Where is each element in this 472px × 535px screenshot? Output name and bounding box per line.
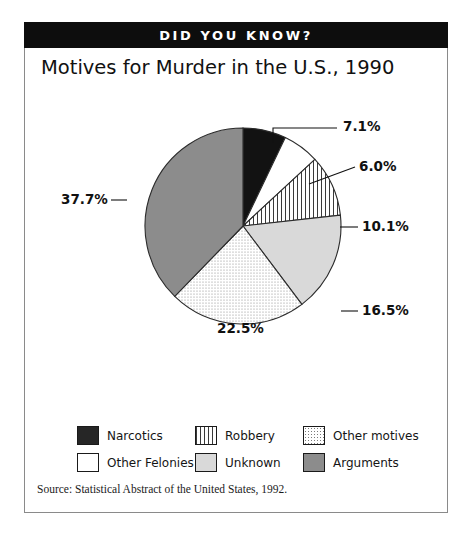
pct-label-robbery: 10.1%	[362, 218, 409, 234]
pie-slices	[145, 128, 341, 324]
legend-label: Arguments	[333, 456, 399, 470]
legend-label: Other motives	[333, 429, 419, 443]
legend-label: Other Felonies	[107, 456, 194, 470]
pct-label-other-felonies: 6.0%	[359, 158, 397, 174]
legend-label: Robbery	[225, 429, 275, 443]
pct-label-narcotics: 7.1%	[343, 118, 381, 134]
legend-label: Unknown	[225, 456, 281, 470]
pct-label-other-motives: 22.5%	[217, 320, 264, 336]
dotted-swatch	[303, 426, 325, 445]
legend-item-other-felonies[interactable]: Other Felonies	[77, 453, 195, 472]
source-note: Source: Statistical Abstract of the Unit…	[37, 483, 287, 495]
pie-chart: 7.1%6.0%10.1%16.5%22.5%37.7%	[25, 83, 447, 423]
legend-item-arguments[interactable]: Arguments	[303, 453, 421, 472]
solid-dark-swatch	[77, 426, 99, 445]
white-swatch	[77, 453, 99, 472]
did-you-know-card: DID YOU KNOW? Motives for Murder in the …	[24, 22, 448, 513]
chart-legend: NarcoticsRobberyOther motivesOther Felon…	[77, 422, 407, 476]
legend-item-unknown[interactable]: Unknown	[195, 453, 303, 472]
pie-chart-svg: 7.1%6.0%10.1%16.5%22.5%37.7%	[25, 83, 447, 423]
mid-gray-swatch	[303, 453, 325, 472]
page-title: Motives for Murder in the U.S., 1990	[41, 56, 394, 79]
legend-item-robbery[interactable]: Robbery	[195, 426, 303, 445]
vertical-stripes-swatch	[195, 426, 217, 445]
pct-label-arguments: 37.7%	[61, 191, 108, 207]
legend-item-narcotics[interactable]: Narcotics	[77, 426, 195, 445]
did-you-know-banner: DID YOU KNOW?	[24, 22, 448, 48]
light-gray-swatch	[195, 453, 217, 472]
banner-title: DID YOU KNOW?	[159, 28, 313, 43]
pct-label-unknown: 16.5%	[362, 302, 409, 318]
legend-label: Narcotics	[107, 429, 163, 443]
legend-item-other-motives[interactable]: Other motives	[303, 426, 421, 445]
